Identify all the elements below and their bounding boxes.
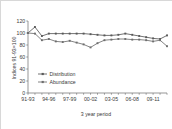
data-point — [104, 39, 106, 41]
data-point — [124, 38, 126, 40]
data-point — [104, 34, 106, 36]
data-point — [97, 34, 99, 36]
data-point — [166, 45, 168, 47]
data-point — [117, 38, 119, 40]
data-point — [55, 40, 57, 42]
data-point — [152, 40, 154, 42]
legend-marker — [42, 73, 44, 75]
data-point — [48, 38, 50, 40]
data-point — [76, 33, 78, 35]
data-point — [97, 42, 99, 44]
x-tick-label: 00-02 — [84, 96, 97, 102]
data-point — [110, 34, 112, 36]
data-point — [69, 40, 71, 42]
data-point — [69, 33, 71, 35]
data-point — [27, 32, 29, 34]
line-chart: 020406080100120 91-9394-9697-9900-0203-0… — [1, 1, 172, 129]
y-tick-label: 20 — [19, 78, 25, 84]
x-tick-label: 06-08 — [126, 96, 139, 102]
data-point — [83, 33, 85, 35]
data-point — [34, 26, 36, 28]
data-point — [62, 41, 64, 43]
y-tick-label: 0 — [22, 90, 25, 96]
data-point — [131, 34, 133, 36]
data-point — [76, 42, 78, 44]
y-tick-label: 120 — [17, 18, 26, 24]
data-point — [55, 33, 57, 35]
data-point — [34, 33, 36, 35]
data-point — [166, 34, 168, 36]
data-point — [41, 39, 43, 41]
x-tick-label: 94-96 — [42, 96, 55, 102]
data-point — [90, 33, 92, 35]
data-point — [83, 43, 85, 45]
legend-label: Abundance — [50, 79, 76, 85]
y-tick-label: 80 — [19, 42, 25, 48]
data-point — [117, 34, 119, 36]
data-point — [145, 39, 147, 41]
data-point — [48, 33, 50, 35]
y-axis-title: Indices 91-93=100 — [11, 36, 17, 79]
data-point — [90, 46, 92, 48]
data-point — [131, 39, 133, 41]
data-point — [159, 39, 161, 41]
data-point — [145, 36, 147, 38]
y-tick-label: 100 — [17, 30, 26, 36]
legend-marker — [42, 81, 44, 83]
data-point — [138, 35, 140, 37]
legend-label: Distribution — [50, 71, 76, 77]
y-tick-label: 40 — [19, 66, 25, 72]
data-point — [41, 35, 43, 37]
x-tick-label: 09-11 — [147, 96, 160, 102]
data-point — [124, 33, 126, 35]
x-tick-label: 03-05 — [105, 96, 118, 102]
chart-frame: 020406080100120 91-9394-9697-9900-0203-0… — [0, 0, 172, 129]
data-point — [62, 33, 64, 35]
plot-background — [1, 1, 172, 129]
data-point — [152, 37, 154, 39]
x-axis-title: 3 year period — [81, 111, 111, 117]
x-tick-label: 97-99 — [63, 96, 76, 102]
data-point — [110, 39, 112, 41]
data-point — [138, 39, 140, 41]
y-tick-label: 60 — [19, 54, 25, 60]
x-tick-label: 91-93 — [21, 96, 34, 102]
